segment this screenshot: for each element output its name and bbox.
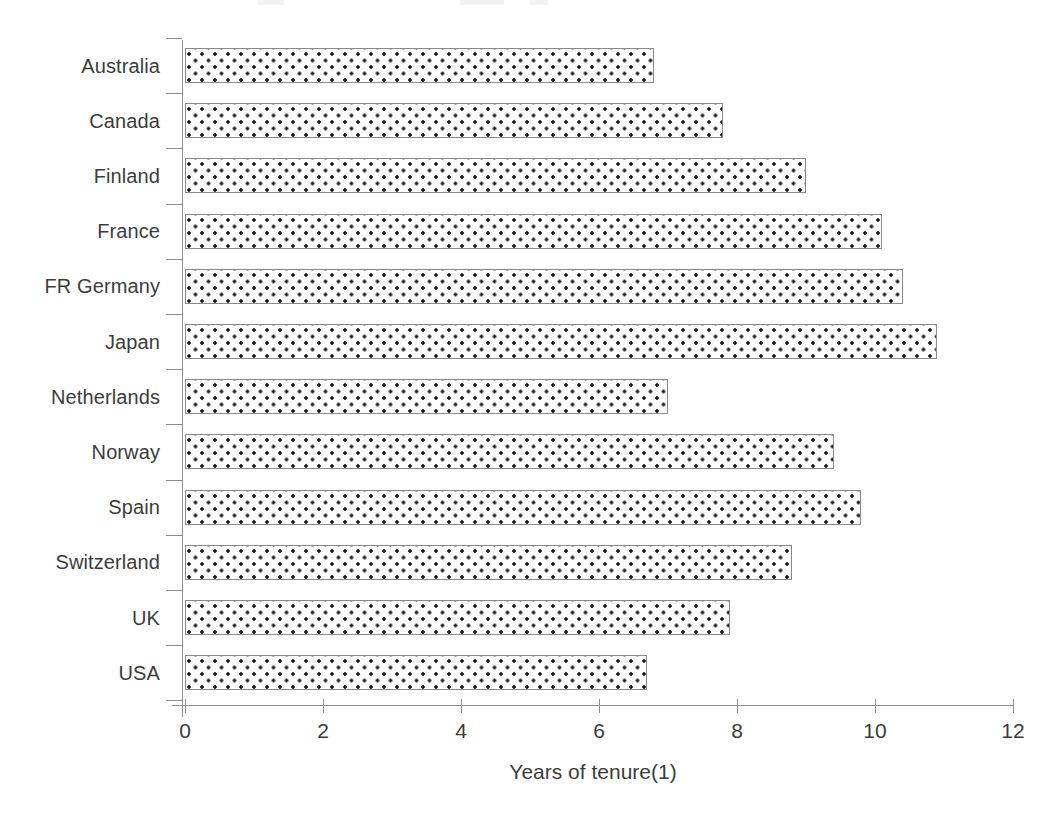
y-axis-tick [166, 535, 182, 536]
bar [185, 48, 654, 83]
bar [185, 269, 903, 304]
y-axis-tick [166, 369, 182, 370]
y-axis-line [182, 40, 183, 717]
x-axis-tick [323, 699, 324, 713]
bar [185, 655, 647, 690]
x-axis-tick-label: 0 [179, 719, 191, 743]
bar [185, 324, 937, 359]
bar [185, 490, 861, 525]
x-axis-tick-label: 8 [731, 719, 743, 743]
y-axis-tick [166, 38, 182, 39]
x-axis-tick [737, 699, 738, 713]
y-axis-tick [166, 424, 182, 425]
y-axis-tick [166, 590, 182, 591]
x-axis-tick-label: 12 [1001, 719, 1024, 743]
x-axis-tick [1013, 699, 1014, 713]
y-axis-tick [166, 148, 182, 149]
y-axis-tick [166, 314, 182, 315]
y-axis-tick [166, 700, 182, 701]
x-axis-tick [599, 699, 600, 713]
bar [185, 379, 668, 414]
x-axis-line [172, 705, 1014, 706]
y-axis-tick [166, 480, 182, 481]
x-axis-tick-label: 2 [317, 719, 329, 743]
y-axis-tick [166, 645, 182, 646]
bar [185, 545, 792, 580]
x-axis-tick-label: 4 [455, 719, 467, 743]
x-axis-tick-label: 6 [593, 719, 605, 743]
y-axis-tick [166, 259, 182, 260]
bar [185, 103, 723, 138]
x-axis-tick-label: 10 [863, 719, 886, 743]
bar [185, 158, 806, 193]
x-axis-tick [461, 699, 462, 713]
x-axis-tick [875, 699, 876, 713]
x-axis-title: Years of tenure(1) [172, 760, 1014, 784]
plot-area: 024681012 [0, 0, 1063, 813]
y-axis-tick [166, 93, 182, 94]
bar [185, 214, 882, 249]
bar [185, 434, 834, 469]
y-axis-tick [166, 204, 182, 205]
horizontal-bar-chart: AustraliaCanadaFinlandFranceFR GermanyJa… [0, 0, 1063, 813]
bar [185, 600, 730, 635]
x-axis-tick [185, 699, 186, 713]
